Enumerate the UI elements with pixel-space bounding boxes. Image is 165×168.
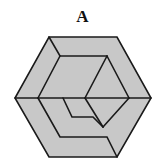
- hexagon-puzzle-figure: [0, 0, 165, 168]
- outer-hexagon: [15, 37, 151, 157]
